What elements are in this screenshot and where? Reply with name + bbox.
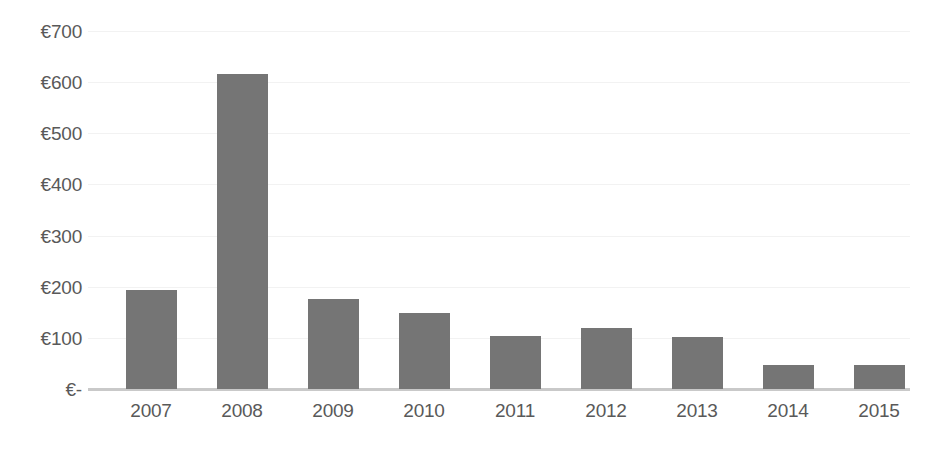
y-tick-label: €- <box>0 380 82 399</box>
plot-area: 200720082009201020112012201320142015 <box>88 0 910 449</box>
x-tick-label: 2012 <box>566 401 646 420</box>
x-tick-label: 2010 <box>384 401 464 420</box>
bar-chart: €700 €600 €500 €400 €300 €200 €100 €- 20… <box>0 0 927 449</box>
x-tick-label: 2014 <box>748 401 828 420</box>
x-tick-label: 2008 <box>202 401 282 420</box>
y-tick-label: €100 <box>0 328 82 347</box>
y-tick-label: €700 <box>0 22 82 41</box>
y-tick-label: €300 <box>0 226 82 245</box>
y-tick-label: €200 <box>0 277 82 296</box>
x-tick-label: 2011 <box>475 401 555 420</box>
x-tick-label: 2009 <box>293 401 373 420</box>
x-tick-label: 2007 <box>111 401 191 420</box>
x-axis: 200720082009201020112012201320142015 <box>88 0 910 449</box>
x-tick-label: 2015 <box>839 401 919 420</box>
y-tick-label: €600 <box>0 73 82 92</box>
y-tick-label: €500 <box>0 124 82 143</box>
y-tick-label: €400 <box>0 175 82 194</box>
x-tick-label: 2013 <box>657 401 737 420</box>
y-axis: €700 €600 €500 €400 €300 €200 €100 €- <box>0 0 82 449</box>
